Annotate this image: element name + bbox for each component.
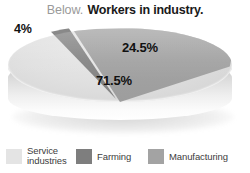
- legend-label-manufacturing: Manufacturing: [169, 152, 228, 162]
- title-main: Workers in industry.: [87, 3, 203, 17]
- legend-label-service-industries: Service industries: [27, 146, 75, 166]
- pie-value-label-manufacturing: 24.5%: [122, 40, 158, 55]
- pie-value-label-service-industries: 71.5%: [96, 73, 132, 88]
- pie-top-face: [8, 28, 232, 102]
- page-title: Below. Workers in industry.: [0, 0, 250, 20]
- legend-swatch-farming: [76, 149, 92, 164]
- title-prefix: Below.: [47, 3, 83, 17]
- legend-item-service-industries[interactable]: Service industries: [6, 146, 75, 166]
- legend-item-farming[interactable]: Farming: [76, 149, 131, 164]
- legend-swatch-service-industries: [6, 149, 22, 164]
- legend-swatch-manufacturing: [148, 149, 164, 164]
- legend-label-farming: Farming: [97, 152, 131, 162]
- pie-value-label-farming: 4%: [14, 22, 32, 36]
- pie-chart: 4% 24.5% 71.5%: [0, 20, 250, 138]
- chart-legend: Service industries Farming Manufacturing: [0, 143, 250, 173]
- legend-item-manufacturing[interactable]: Manufacturing: [148, 149, 228, 164]
